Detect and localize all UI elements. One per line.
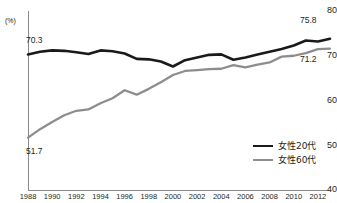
data-label-start-women-60s: 51.7 bbox=[26, 147, 43, 156]
line-chart: 80 70 60 50 40 (%) 198819901992199419961… bbox=[0, 0, 337, 203]
series-line-women-20s bbox=[28, 39, 330, 67]
legend-label-women-60s: 女性60代 bbox=[278, 155, 316, 165]
legend-item-women-60s: 女性60代 bbox=[253, 153, 333, 167]
data-label-end-women-60s: 71.2 bbox=[300, 55, 317, 64]
plot-area bbox=[0, 0, 337, 203]
legend-line-swatch-icon bbox=[253, 145, 273, 147]
legend-label-women-20s: 女性20代 bbox=[278, 141, 316, 151]
legend-item-women-20s: 女性20代 bbox=[253, 139, 333, 153]
data-label-end-women-20s: 75.8 bbox=[300, 16, 317, 25]
chart-legend: 女性20代 女性60代 bbox=[253, 139, 333, 167]
data-label-start-women-20s: 70.3 bbox=[26, 36, 43, 45]
legend-line-swatch-icon bbox=[253, 159, 273, 161]
